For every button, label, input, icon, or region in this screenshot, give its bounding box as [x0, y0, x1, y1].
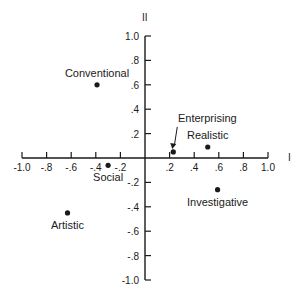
point-label: Social: [93, 171, 123, 183]
point-label: Artistic: [51, 219, 85, 231]
y-tick-label: 1.0: [125, 31, 139, 42]
point-label: Conventional: [65, 67, 129, 79]
annotation-arrow: [174, 127, 177, 146]
point-label: Realistic: [187, 129, 229, 141]
y-tick-label: .6: [131, 80, 140, 91]
data-point: [171, 149, 176, 154]
y-tick-label: .4: [131, 104, 140, 115]
data-point: [106, 163, 111, 168]
point-label: Investigative: [187, 196, 248, 208]
y-tick-label: .8: [131, 55, 140, 66]
data-point: [65, 210, 70, 215]
x-axis-label: I: [288, 152, 291, 163]
data-point: [94, 82, 99, 87]
y-tick-label: -.2: [127, 177, 139, 188]
y-axis-label: II: [142, 12, 148, 23]
y-tick-label: -1.0: [122, 275, 140, 286]
y-tick-label: -.4: [127, 202, 139, 213]
x-tick-label: .6: [215, 162, 224, 173]
data-point: [205, 144, 210, 149]
x-tick-label: -.6: [65, 162, 77, 173]
y-tick-label: .2: [131, 129, 140, 140]
data-point: [215, 187, 220, 192]
axes: [22, 36, 268, 280]
x-tick-label: .8: [239, 162, 248, 173]
x-tick-label: .4: [190, 162, 199, 173]
y-tick-label: -.6: [127, 226, 139, 237]
x-tick-label: .2: [165, 162, 174, 173]
x-tick-label: 1.0: [261, 162, 275, 173]
y-tick-label: -.8: [127, 251, 139, 262]
point-label: Enterprising: [178, 112, 237, 124]
scatter-chart: -1.0-.8-.6-.4-.2.2.4.6.81.01.0.8.6.4.2-.…: [0, 0, 301, 306]
x-tick-label: -.8: [41, 162, 53, 173]
arrow-head: [170, 143, 176, 149]
x-tick-label: -1.0: [13, 162, 31, 173]
